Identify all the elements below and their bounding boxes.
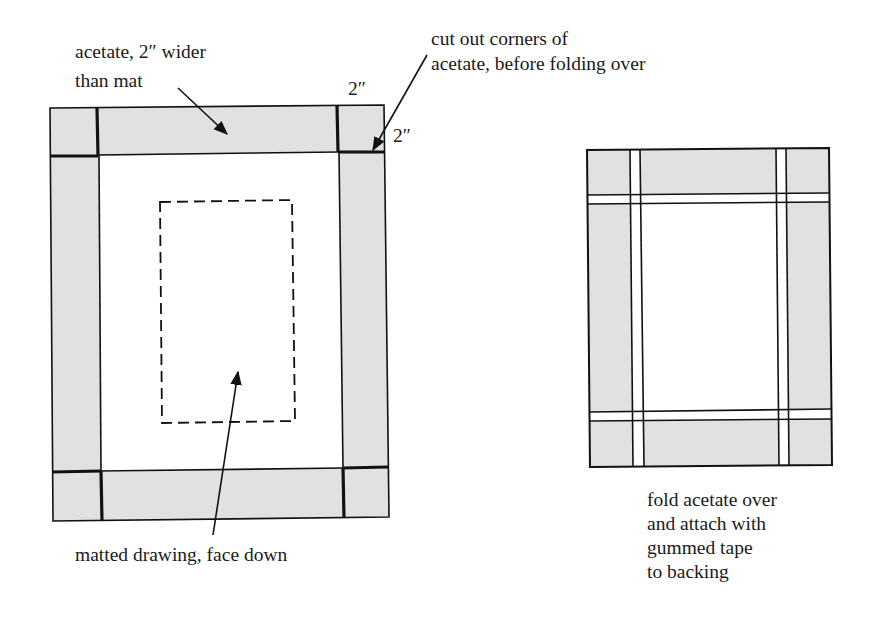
right-figure: fold acetate over and attach with gummed… [587, 148, 832, 582]
cut-label-line2: acetate, before folding over [431, 53, 646, 74]
acetate-label-line1: acetate, 2″ wider [75, 41, 207, 62]
left-figure: acetate, 2″ wider than mat cut out corne… [50, 28, 646, 565]
drawing-label: matted drawing, face down [75, 544, 288, 565]
diagram-canvas: acetate, 2″ wider than mat cut out corne… [0, 0, 874, 638]
caption-line3: gummed tape [647, 537, 753, 558]
caption-line1: fold acetate over [647, 489, 777, 510]
dimension-side-label: 2″ [393, 125, 411, 146]
mat-area [99, 152, 343, 472]
folded-center [641, 202, 779, 412]
caption-line4: to backing [647, 561, 729, 582]
caption-line2: and attach with [647, 513, 766, 534]
dimension-top-label: 2″ [348, 78, 366, 99]
acetate-label-line2: than mat [75, 70, 143, 91]
cut-label-line1: cut out corners of [431, 28, 569, 49]
